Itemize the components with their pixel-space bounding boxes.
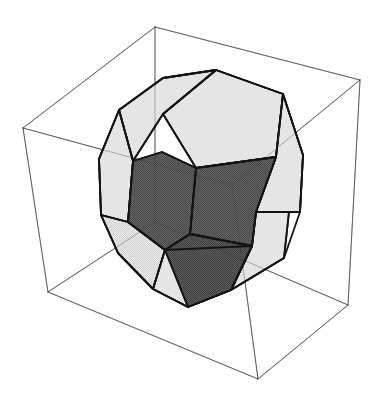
figure-canvas — [0, 0, 383, 405]
dodecahedron-scene — [0, 0, 383, 405]
